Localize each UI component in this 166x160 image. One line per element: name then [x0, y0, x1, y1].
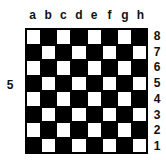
- square-e2: [88, 123, 101, 137]
- square-c8: [57, 30, 70, 44]
- square-f1: [103, 139, 116, 153]
- square-d5: [72, 77, 85, 91]
- square-f7: [103, 46, 116, 60]
- square-d3: [72, 108, 85, 122]
- square-b4: [41, 91, 56, 107]
- square-c1: [56, 138, 71, 154]
- square-c5: [56, 76, 71, 92]
- square-e5: [87, 76, 102, 92]
- file-label-h: h: [133, 6, 148, 24]
- square-b5: [42, 77, 55, 91]
- square-c7: [56, 45, 71, 61]
- square-b2: [41, 122, 56, 138]
- square-b7: [42, 46, 55, 60]
- square-a4: [27, 92, 40, 106]
- square-g6: [118, 61, 131, 75]
- rank-label-4: 4: [150, 91, 164, 107]
- rank-label-5: 5: [150, 75, 164, 91]
- square-h7: [133, 46, 146, 60]
- rank-label-8: 8: [150, 28, 164, 44]
- rank-label-1: 1: [150, 138, 164, 154]
- square-g7: [117, 45, 132, 61]
- square-a6: [27, 61, 40, 75]
- square-h8: [132, 29, 147, 45]
- square-e8: [88, 30, 101, 44]
- square-f3: [103, 108, 116, 122]
- square-a3: [26, 107, 41, 123]
- square-c6: [57, 61, 70, 75]
- square-d7: [72, 46, 85, 60]
- square-f2: [102, 122, 117, 138]
- square-g4: [118, 92, 131, 106]
- square-h6: [132, 60, 147, 76]
- square-c3: [56, 107, 71, 123]
- file-label-b: b: [40, 6, 55, 24]
- square-b1: [42, 139, 55, 153]
- square-b8: [41, 29, 56, 45]
- square-d1: [72, 139, 85, 153]
- rank-label-7: 7: [150, 44, 164, 60]
- rank-label-6: 6: [150, 60, 164, 76]
- square-h4: [132, 91, 147, 107]
- square-e1: [87, 138, 102, 154]
- rank-labels: 8 7 6 5 4 3 2 1: [150, 28, 164, 154]
- square-g1: [117, 138, 132, 154]
- square-g5: [117, 76, 132, 92]
- square-b3: [42, 108, 55, 122]
- square-a8: [27, 30, 40, 44]
- square-a2: [27, 123, 40, 137]
- file-label-f: f: [102, 6, 117, 24]
- square-h1: [133, 139, 146, 153]
- file-label-d: d: [71, 6, 86, 24]
- square-g3: [117, 107, 132, 123]
- file-label-c: c: [56, 6, 71, 24]
- file-label-g: g: [117, 6, 132, 24]
- square-d2: [71, 122, 86, 138]
- square-d4: [71, 91, 86, 107]
- square-h3: [133, 108, 146, 122]
- square-c2: [57, 123, 70, 137]
- square-a1: [26, 138, 41, 154]
- square-g2: [118, 123, 131, 137]
- side-label: 5: [3, 76, 17, 94]
- square-e3: [87, 107, 102, 123]
- square-e6: [88, 61, 101, 75]
- file-label-e: e: [87, 6, 102, 24]
- square-f4: [102, 91, 117, 107]
- square-a7: [26, 45, 41, 61]
- square-h5: [133, 77, 146, 91]
- chessboard: [25, 28, 148, 154]
- file-label-a: a: [25, 6, 40, 24]
- rank-label-2: 2: [150, 123, 164, 139]
- square-e4: [88, 92, 101, 106]
- square-e7: [87, 45, 102, 61]
- square-d8: [71, 29, 86, 45]
- square-f5: [103, 77, 116, 91]
- square-f8: [102, 29, 117, 45]
- square-d6: [71, 60, 86, 76]
- square-h2: [132, 122, 147, 138]
- rank-label-3: 3: [150, 107, 164, 123]
- square-c4: [57, 92, 70, 106]
- file-labels: a b c d e f g h: [25, 6, 148, 24]
- square-g8: [118, 30, 131, 44]
- square-a5: [26, 76, 41, 92]
- square-b6: [41, 60, 56, 76]
- square-f6: [102, 60, 117, 76]
